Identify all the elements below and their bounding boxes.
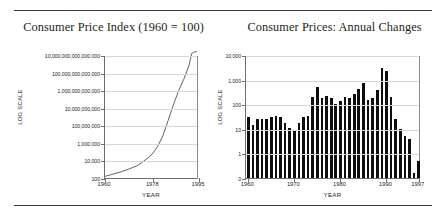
bar xyxy=(417,161,420,178)
bar xyxy=(413,173,416,178)
y-tick-mark xyxy=(101,56,105,57)
y-axis-labels-left: 10,000,000,000,000,000100,000,000,000,00… xyxy=(20,56,100,179)
bar xyxy=(330,98,333,178)
y-tick-mark xyxy=(242,154,246,155)
y-tick-label: 10,000 xyxy=(225,53,241,59)
y-tick-label: 100 xyxy=(232,102,241,108)
y-tick-label: 10 xyxy=(235,127,241,133)
gridline xyxy=(246,56,419,57)
plot-area-cpi-annual-changes xyxy=(245,56,420,179)
y-tick-mark xyxy=(242,105,246,106)
gridline xyxy=(246,81,419,82)
y-tick-mark xyxy=(101,126,105,127)
x-tick-label: 1980 xyxy=(333,181,346,187)
x-tick-label: 1960 xyxy=(98,181,111,187)
bar xyxy=(390,97,393,178)
bar xyxy=(353,94,356,178)
gridline xyxy=(105,109,197,110)
bar xyxy=(344,97,347,178)
x-axis-labels-right: 19601970198019901997 xyxy=(245,179,420,191)
bar xyxy=(302,117,305,178)
y-tick-mark xyxy=(101,74,105,75)
x-tick-label: 1970 xyxy=(287,181,300,187)
y-tick-mark xyxy=(242,56,246,57)
y-tick-label: 1 xyxy=(238,151,241,157)
plot-area-cpi-index xyxy=(104,56,198,179)
panel-title-cpi-index: Consumer Price Index (1960 = 100) xyxy=(0,20,225,35)
gridline xyxy=(105,74,197,75)
x-tick-label: 1997 xyxy=(411,181,424,187)
y-tick-label: 100,000,000,000,000 xyxy=(52,71,100,77)
x-tick-label: 1995 xyxy=(192,181,205,187)
y-tick-label: 1,000,000 xyxy=(77,141,100,147)
chart-cpi-index: 10,000,000,000,000,000100,000,000,000,00… xyxy=(104,56,198,179)
y-tick-mark xyxy=(242,81,246,82)
x-axis-title-right: YEAR xyxy=(245,191,420,198)
top-divider-rule xyxy=(14,10,432,11)
bar xyxy=(357,89,360,178)
bar xyxy=(279,117,282,178)
y-axis-labels-right: 10,0001,0001001010 xyxy=(221,56,241,179)
bar xyxy=(316,87,319,178)
y-tick-mark xyxy=(101,109,105,110)
bar xyxy=(376,90,379,178)
y-tick-label: 1,000 xyxy=(228,78,241,84)
chart-cpi-annual-changes: 10,0001,0001001010 19601970198019901997 … xyxy=(245,56,420,179)
bar xyxy=(261,119,264,178)
bar xyxy=(404,136,407,178)
bar xyxy=(367,100,370,178)
bar xyxy=(298,123,301,178)
bar xyxy=(288,128,291,178)
bar xyxy=(394,119,397,178)
bar xyxy=(321,98,324,178)
x-tick-label: 1978 xyxy=(146,181,159,187)
bar xyxy=(385,71,388,178)
figure-page: Consumer Price Index (1960 = 100) LOG SC… xyxy=(0,0,446,216)
gridline xyxy=(105,161,197,162)
bar xyxy=(275,116,278,178)
bar xyxy=(334,104,337,178)
bottom-divider-rule xyxy=(14,205,432,206)
y-tick-label: 1,000,000,000,000 xyxy=(58,88,100,94)
gridline xyxy=(105,56,197,57)
gridline xyxy=(246,130,419,131)
bar xyxy=(284,123,287,178)
gridline xyxy=(246,154,419,155)
y-tick-mark xyxy=(101,91,105,92)
x-axis-title-left: YEAR xyxy=(104,191,198,198)
y-tick-label: 10,000 xyxy=(84,158,100,164)
gridline xyxy=(105,91,197,92)
gridline xyxy=(246,105,419,106)
panel-title-cpi-annual-changes: Consumer Prices: Annual Changes xyxy=(223,20,446,35)
bar xyxy=(348,98,351,178)
bar xyxy=(311,97,314,178)
bar xyxy=(408,139,411,178)
y-tick-label: 10,000,000,000,000,000 xyxy=(45,53,100,59)
gridline xyxy=(105,144,197,145)
bar xyxy=(256,119,259,178)
y-tick-label: 100,000,000 xyxy=(72,123,100,129)
x-tick-label: 1990 xyxy=(379,181,392,187)
bar xyxy=(371,98,374,178)
y-tick-mark xyxy=(242,130,246,131)
y-tick-mark xyxy=(101,161,105,162)
y-tick-label: 10,000,000,000 xyxy=(65,106,100,112)
bar xyxy=(307,116,310,178)
bar xyxy=(325,96,328,178)
x-axis-labels-left: 196019781995 xyxy=(104,179,198,191)
bar xyxy=(252,125,255,178)
bar xyxy=(265,119,268,178)
panel-cpi-annual-changes: Consumer Prices: Annual Changes LOG SCAL… xyxy=(223,14,446,204)
y-tick-mark xyxy=(101,144,105,145)
bar xyxy=(247,117,250,178)
panel-cpi-index: Consumer Price Index (1960 = 100) LOG SC… xyxy=(0,14,223,204)
bar xyxy=(270,117,273,178)
bar-series-annual-changes xyxy=(246,56,419,178)
x-tick-label: 1960 xyxy=(241,181,254,187)
bar xyxy=(339,101,342,178)
gridline xyxy=(105,126,197,127)
bar xyxy=(381,68,384,178)
panels-container: Consumer Price Index (1960 = 100) LOG SC… xyxy=(0,14,446,204)
